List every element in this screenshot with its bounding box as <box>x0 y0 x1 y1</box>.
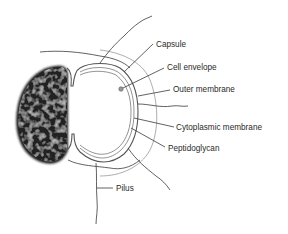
label-cell-envelope: Cell envelope <box>167 63 217 72</box>
label-pilus: Pilus <box>116 184 134 193</box>
pilus-bottom <box>96 163 97 224</box>
envelope-node <box>119 87 123 91</box>
label-peptidoglycan: Peptidoglycan <box>168 144 220 153</box>
dark-daughter-cell <box>16 66 68 164</box>
leader-cytoplasmic-membrane <box>134 118 174 127</box>
leader-peptidoglycan <box>131 128 165 147</box>
bacterial-cell-diagram: Capsule Cell envelope Outer membrane Cyt… <box>0 0 288 234</box>
label-outer-membrane: Outer membrane <box>173 85 235 94</box>
pilus-top <box>100 16 152 63</box>
leader-outer-membrane <box>138 90 170 96</box>
pilus-right <box>138 104 188 107</box>
cell-wall <box>80 64 138 163</box>
pilus-lower-right <box>128 148 170 190</box>
label-capsule: Capsule <box>156 40 186 49</box>
septum <box>67 68 80 152</box>
leader-lines <box>97 44 174 188</box>
label-cytoplasmic-membrane: Cytoplasmic membrane <box>176 123 262 132</box>
pilus-lower-left <box>68 160 140 169</box>
